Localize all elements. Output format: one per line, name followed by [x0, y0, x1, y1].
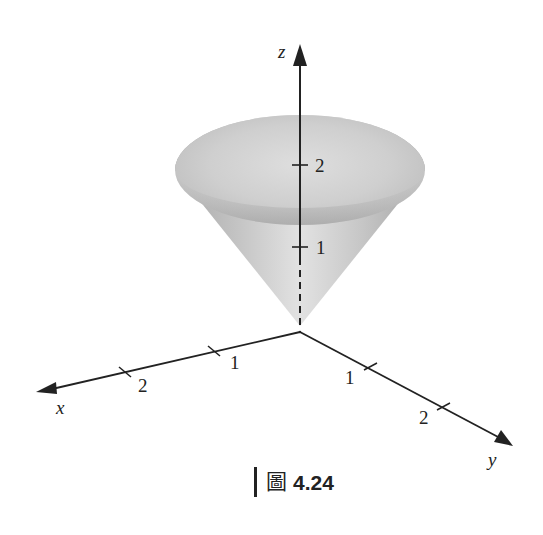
- caption-figure-glyph: 圖: [266, 472, 287, 493]
- cone-figure: z 2 1 x 1 2 y 1 2: [0, 0, 543, 535]
- z-axis-label: z: [277, 41, 286, 62]
- figure-caption: 圖 4.24: [254, 466, 334, 498]
- z-tick-label-2: 2: [315, 155, 325, 176]
- y-tick-label-1: 1: [345, 367, 355, 388]
- x-tick-label-2: 2: [138, 375, 148, 396]
- y-axis-line: [300, 332, 500, 438]
- y-tick-label-2: 2: [419, 407, 429, 428]
- origin-point: [299, 331, 301, 333]
- x-axis-label: x: [55, 397, 65, 418]
- z-tick-label-1: 1: [316, 237, 326, 258]
- caption-figure-number: 4.24: [293, 472, 334, 493]
- caption-bar: [254, 467, 257, 497]
- z-axis-arrowhead-icon: [293, 44, 307, 66]
- y-axis-label: y: [486, 449, 497, 470]
- x-axis-line: [52, 332, 300, 389]
- x-axis-arrowhead-icon: [36, 382, 57, 394]
- y-axis-arrowhead-icon: [494, 430, 513, 446]
- x-tick-label-1: 1: [230, 352, 240, 373]
- y-axis: [300, 332, 513, 446]
- x-axis: [36, 332, 300, 394]
